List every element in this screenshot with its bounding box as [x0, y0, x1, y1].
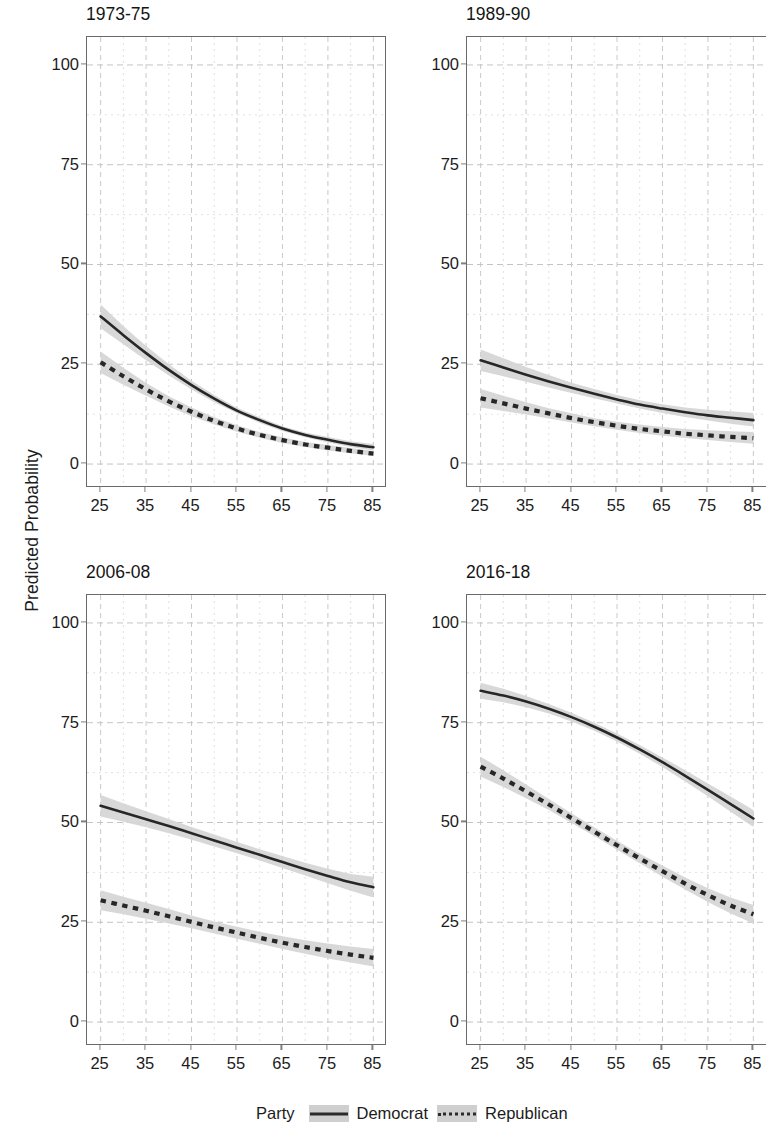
y-tick-label: 50	[441, 812, 459, 831]
y-tick-mark	[81, 263, 86, 264]
y-tick-label: 75	[61, 154, 79, 173]
legend-label: Republican	[485, 1104, 568, 1123]
x-tick-mark	[706, 487, 707, 492]
y-axis-title: Predicted Probability	[22, 381, 43, 681]
y-tick-mark	[81, 163, 86, 164]
x-tick-label: 45	[561, 1054, 579, 1073]
y-tick-mark	[461, 621, 466, 622]
series-line-democrat	[481, 691, 754, 819]
x-tick-label: 65	[652, 1054, 670, 1073]
x-tick-mark	[479, 1045, 480, 1050]
panel-title: 1989-90	[466, 4, 530, 25]
x-tick-mark	[281, 1045, 282, 1050]
y-tick-label: 25	[61, 912, 79, 931]
y-tick-mark	[81, 1020, 86, 1021]
x-tick-label: 35	[136, 496, 154, 515]
y-tick-mark	[81, 721, 86, 722]
x-tick-mark	[190, 1045, 191, 1050]
plot-svg	[467, 595, 766, 1045]
y-tick-label: 50	[61, 254, 79, 273]
x-tick-mark	[235, 487, 236, 492]
chart-panel: 2006-08025507510025354555657585	[86, 594, 386, 1045]
x-tick-label: 85	[743, 1054, 761, 1073]
x-tick-label: 85	[743, 496, 761, 515]
plot-svg	[87, 595, 386, 1045]
x-tick-label: 45	[181, 496, 199, 515]
panel-title: 2016-18	[466, 562, 530, 583]
y-tick-mark	[461, 721, 466, 722]
chart-panel: 2016-18025507510025354555657585	[466, 594, 766, 1045]
x-tick-label: 75	[318, 1054, 336, 1073]
x-tick-mark	[615, 1045, 616, 1050]
x-tick-mark	[372, 487, 373, 492]
legend-label: Democrat	[357, 1104, 429, 1123]
x-tick-label: 35	[516, 1054, 534, 1073]
plot-svg	[467, 37, 766, 487]
x-tick-mark	[99, 1045, 100, 1050]
y-tick-mark	[81, 621, 86, 622]
chart-panel: 1989-90025507510025354555657585	[466, 36, 766, 487]
x-tick-label: 35	[516, 496, 534, 515]
y-tick-mark	[461, 921, 466, 922]
x-tick-mark	[570, 1045, 571, 1050]
x-tick-label: 25	[90, 1054, 108, 1073]
x-tick-label: 75	[698, 1054, 716, 1073]
x-tick-label: 25	[90, 496, 108, 515]
x-tick-mark	[190, 487, 191, 492]
x-tick-label: 65	[272, 496, 290, 515]
x-tick-label: 75	[698, 496, 716, 515]
y-tick-mark	[461, 1020, 466, 1021]
x-tick-mark	[524, 1045, 525, 1050]
y-tick-mark	[461, 462, 466, 463]
y-tick-label: 75	[441, 154, 459, 173]
legend-entry-republican: Republican	[437, 1104, 568, 1123]
x-tick-mark	[326, 1045, 327, 1050]
x-tick-mark	[706, 1045, 707, 1050]
y-tick-label: 0	[70, 1012, 79, 1031]
plot-svg	[87, 37, 386, 487]
x-tick-mark	[752, 1045, 753, 1050]
y-tick-label: 50	[441, 254, 459, 273]
x-tick-label: 85	[363, 496, 381, 515]
x-tick-mark	[752, 487, 753, 492]
x-tick-mark	[661, 1045, 662, 1050]
x-tick-mark	[372, 1045, 373, 1050]
y-tick-mark	[461, 63, 466, 64]
panel-title: 2006-08	[86, 562, 150, 583]
x-tick-label: 65	[272, 1054, 290, 1073]
panel-title: 1973-75	[86, 4, 150, 25]
x-tick-mark	[570, 487, 571, 492]
x-tick-mark	[281, 487, 282, 492]
y-tick-mark	[81, 363, 86, 364]
y-tick-label: 75	[61, 712, 79, 731]
x-tick-label: 45	[561, 496, 579, 515]
y-tick-mark	[461, 163, 466, 164]
y-tick-label: 50	[61, 812, 79, 831]
legend-swatch-dotted	[437, 1105, 477, 1122]
y-tick-label: 100	[431, 54, 459, 73]
legend-swatch-solid	[309, 1105, 349, 1122]
y-tick-mark	[81, 63, 86, 64]
x-tick-mark	[99, 487, 100, 492]
y-tick-mark	[81, 462, 86, 463]
x-tick-label: 25	[470, 496, 488, 515]
y-tick-mark	[461, 821, 466, 822]
x-tick-label: 35	[136, 1054, 154, 1073]
y-tick-label: 0	[70, 454, 79, 473]
plot-area	[86, 594, 386, 1045]
x-tick-label: 55	[227, 496, 245, 515]
x-tick-label: 55	[607, 1054, 625, 1073]
y-tick-mark	[81, 921, 86, 922]
legend-entry-democrat: Democrat	[309, 1104, 429, 1123]
plot-area	[466, 594, 766, 1045]
plot-area	[86, 36, 386, 487]
x-tick-mark	[479, 487, 480, 492]
x-tick-mark	[326, 487, 327, 492]
y-tick-label: 0	[450, 454, 459, 473]
x-tick-mark	[524, 487, 525, 492]
x-tick-mark	[144, 487, 145, 492]
chart-panel: 1973-75025507510025354555657585	[86, 36, 386, 487]
x-tick-label: 85	[363, 1054, 381, 1073]
y-tick-mark	[81, 821, 86, 822]
x-tick-label: 55	[227, 1054, 245, 1073]
